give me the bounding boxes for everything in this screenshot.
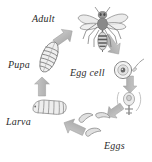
wasp-icon [76,5,130,55]
eggs-icon [76,110,116,144]
stage-label-egg-cell: Egg cell [70,68,105,78]
egg-cell-icon [112,58,146,84]
stage-label-larva: Larva [6,117,31,127]
stage-label-eggs: Eggs [104,141,125,151]
pupa-icon [34,38,64,76]
life-cycle-diagram: Adult Egg cell Eggs Larva Pupa [0,0,152,162]
ovipositor-icon [113,88,145,120]
stage-label-pupa: Pupa [8,60,30,70]
stage-label-adult: Adult [32,14,55,24]
arrow-larva-to-pupa [35,77,50,96]
larva-icon [30,96,70,118]
